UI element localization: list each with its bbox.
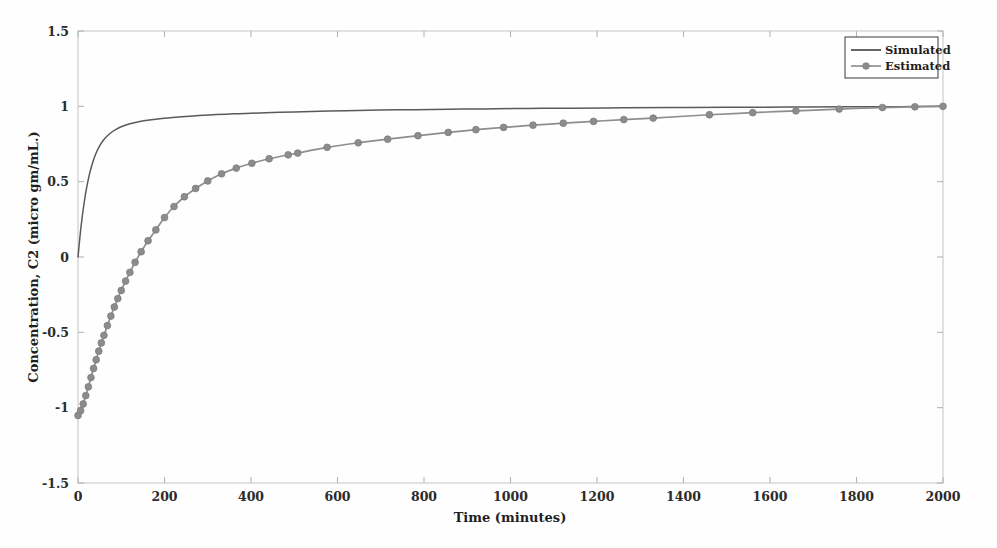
data-point-marker: [111, 304, 118, 311]
data-point-marker: [324, 144, 331, 151]
data-point-marker: [836, 106, 843, 113]
data-point-marker: [93, 356, 100, 363]
data-point-marker: [132, 259, 139, 266]
y-tick-label: -0.5: [42, 325, 69, 340]
data-point-marker: [85, 383, 92, 390]
y-tick-label: 0: [60, 250, 69, 265]
data-point-marker: [204, 178, 211, 185]
x-tick-label: 400: [238, 489, 264, 504]
data-point-marker: [355, 139, 362, 146]
data-point-marker: [88, 374, 95, 381]
data-point-marker: [98, 339, 105, 346]
x-tick-label: 1000: [493, 489, 528, 504]
x-tick-label: 0: [74, 489, 83, 504]
x-tick-label: 2000: [926, 489, 961, 504]
x-tick-label: 1800: [839, 489, 874, 504]
data-point-marker: [879, 104, 886, 111]
y-tick-label: 1.5: [47, 24, 69, 39]
legend-label-estimated: Estimated: [885, 59, 950, 73]
data-point-marker: [749, 109, 756, 116]
data-point-marker: [138, 248, 145, 255]
data-point-marker: [530, 122, 537, 129]
x-tick-label: 1200: [580, 489, 615, 504]
data-point-marker: [650, 115, 657, 122]
data-point-marker: [473, 126, 480, 133]
data-point-marker: [706, 111, 713, 118]
data-point-marker: [500, 124, 507, 131]
data-point-marker: [285, 151, 292, 158]
legend-swatch-estimated-marker: [863, 63, 870, 70]
data-point-marker: [181, 193, 188, 200]
data-point-marker: [145, 237, 152, 244]
data-point-marker: [171, 203, 178, 210]
x-tick-label: 200: [151, 489, 177, 504]
data-point-marker: [90, 365, 97, 372]
y-axis-tick-labels: -1.5-1-0.500.511.5: [42, 24, 69, 491]
data-point-marker: [118, 287, 125, 294]
chart-legend[interactable]: Simulated Estimated: [845, 37, 951, 78]
data-point-marker: [911, 103, 918, 110]
x-tick-label: 1400: [666, 489, 701, 504]
data-point-marker: [415, 132, 422, 139]
data-point-marker: [95, 348, 102, 355]
data-series-group: [75, 103, 947, 419]
legend-label-simulated: Simulated: [885, 43, 951, 57]
x-axis-tick-labels: 0200400600800100012001400160018002000: [74, 489, 961, 504]
x-axis-title: Time (minutes): [454, 510, 567, 525]
figure-container: 0200400600800100012001400160018002000 -1…: [0, 0, 997, 548]
y-tick-label: 0.5: [47, 174, 69, 189]
x-axis-tick-marks: [78, 31, 943, 483]
y-axis-tick-marks: [78, 31, 943, 483]
data-point-marker: [126, 269, 133, 276]
data-point-marker: [152, 226, 159, 233]
data-point-marker: [620, 116, 627, 123]
data-point-marker: [192, 185, 199, 192]
data-point-marker: [940, 103, 947, 110]
data-point-marker: [793, 107, 800, 114]
x-tick-label: 800: [411, 489, 437, 504]
data-point-marker: [266, 155, 273, 162]
data-point-marker: [233, 165, 240, 172]
data-point-marker: [161, 214, 168, 221]
data-point-marker: [122, 278, 129, 285]
data-point-marker: [445, 129, 452, 136]
series-estimated-line: [78, 106, 943, 415]
y-tick-label: -1: [55, 400, 69, 415]
x-tick-label: 1600: [753, 489, 788, 504]
chart-canvas: 0200400600800100012001400160018002000 -1…: [0, 0, 997, 548]
y-tick-label: 1: [60, 99, 69, 114]
data-point-marker: [560, 120, 567, 127]
data-point-marker: [101, 332, 108, 339]
y-tick-label: -1.5: [42, 476, 69, 491]
data-point-marker: [590, 118, 597, 125]
x-tick-label: 600: [324, 489, 350, 504]
data-point-marker: [80, 401, 87, 408]
data-point-marker: [114, 295, 121, 302]
y-axis-title: Concentration, C2 (micro gm/mL.): [26, 131, 41, 382]
data-point-marker: [248, 160, 255, 167]
series-estimated-markers: [75, 103, 947, 419]
data-point-marker: [104, 322, 111, 329]
data-point-marker: [107, 313, 114, 320]
data-point-marker: [218, 170, 225, 177]
data-point-marker: [82, 392, 89, 399]
plot-axis-frame: [78, 31, 943, 483]
data-point-marker: [77, 407, 84, 414]
data-point-marker: [384, 136, 391, 143]
data-point-marker: [294, 150, 301, 157]
